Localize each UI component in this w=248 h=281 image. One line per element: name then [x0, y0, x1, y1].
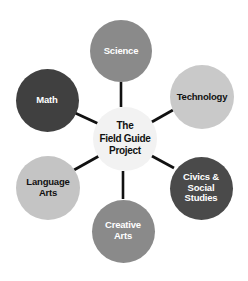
node-math-label: Math — [34, 95, 59, 106]
node-language-arts[interactable]: Language Arts — [16, 156, 80, 220]
node-science-label: Science — [102, 46, 141, 57]
node-science[interactable]: Science — [90, 20, 152, 82]
diagram-canvas: Science Technology Civics & Social Studi… — [0, 0, 248, 281]
node-civics-social-studies[interactable]: Civics & Social Studies — [170, 157, 233, 220]
node-civics-social-studies-label: Civics & Social Studies — [181, 172, 221, 204]
node-creative-arts[interactable]: Creative Arts — [92, 200, 155, 263]
node-technology[interactable]: Technology — [170, 65, 234, 129]
node-language-arts-label: Language Arts — [24, 177, 71, 198]
connector-center-to-civics — [150, 155, 174, 168]
node-math[interactable]: Math — [16, 69, 79, 132]
node-technology-label: Technology — [175, 92, 230, 103]
node-center-hub[interactable]: The Field Guide Project — [93, 107, 157, 171]
connector-center-to-technology — [150, 110, 173, 123]
connector-center-to-math — [73, 112, 99, 124]
node-creative-arts-label: Creative Arts — [103, 220, 143, 241]
node-center-hub-label: The Field Guide Project — [97, 120, 152, 158]
connector-center-to-language-arts — [74, 156, 99, 170]
